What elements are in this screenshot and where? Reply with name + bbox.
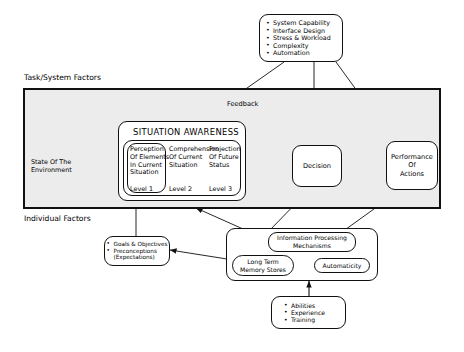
task-system-factors-label: Task/System Factors <box>24 73 101 82</box>
goals-subitem: (Expectations) <box>107 254 168 261</box>
task-factor-item: Automation <box>266 49 336 56</box>
task-factor-item: System Capability <box>266 19 336 26</box>
level-2-label: Level 2 <box>169 185 192 193</box>
performance-line3: Actions <box>391 170 433 178</box>
performance-line2: Of <box>391 161 433 169</box>
ip-title-line1: Information Processing <box>277 234 347 242</box>
task-factor-item: Stress & Workload <box>266 34 336 41</box>
performance-of-actions-box[interactable]: Performance Of Actions <box>386 141 438 190</box>
goals-item: Preconceptions <box>107 248 168 255</box>
task-system-factors-box[interactable]: System Capability Interface Design Stres… <box>259 14 343 62</box>
decision-label: Decision <box>303 162 331 170</box>
decision-box[interactable]: Decision <box>292 145 342 187</box>
ability-item: Training <box>284 316 333 323</box>
ability-item: Experience <box>284 309 333 316</box>
information-processing-mechanisms-box[interactable]: Information Processing Mechanisms <box>268 232 356 252</box>
goals-item: Goals & Objectives <box>107 241 168 248</box>
individual-factors-label: Individual Factors <box>24 214 91 223</box>
state-of-environment-line2: Environment <box>31 167 72 175</box>
level-3-line3: Status <box>209 162 241 170</box>
automaticity-box[interactable]: Automaticity <box>314 258 370 273</box>
feedback-label: Feedback <box>224 100 261 108</box>
goals-objectives-box[interactable]: Goals & Objectives Preconceptions (Expec… <box>104 236 170 266</box>
task-factor-item: Complexity <box>266 42 336 49</box>
ability-item: Abilities <box>284 302 333 309</box>
ip-mechanisms-text: Information Processing Mechanisms <box>277 234 347 249</box>
performance-of-actions-text: Performance Of Actions <box>391 153 433 178</box>
abilities-experience-training-box[interactable]: Abilities Experience Training <box>271 296 346 329</box>
ip-title-line2: Mechanisms <box>277 242 347 250</box>
task-factor-item: Interface Design <box>266 27 336 34</box>
situation-awareness-title: SITUATION AWARENESS <box>133 127 239 137</box>
level-3-label: Level 3 <box>209 185 232 193</box>
ltm-text: Long Term Memory Stores <box>240 258 286 273</box>
automaticity-label: Automaticity <box>323 262 362 269</box>
long-term-memory-stores-box[interactable]: Long Term Memory Stores <box>232 255 294 276</box>
level-1-line4: Situation <box>130 169 169 177</box>
level-1-label: Level 1 <box>130 185 153 193</box>
ltm-line1: Long Term <box>240 258 286 266</box>
state-of-environment-text: State Of The Environment <box>31 159 72 175</box>
ltm-line2: Memory Stores <box>240 266 286 274</box>
performance-line1: Performance <box>391 153 433 161</box>
diagram-canvas: Task/System Factors Individual Factors F… <box>0 0 464 352</box>
level-1-text: Perception Of Elements In Current Situat… <box>130 146 169 177</box>
level-3-text: Projection Of Future Status <box>209 146 241 169</box>
